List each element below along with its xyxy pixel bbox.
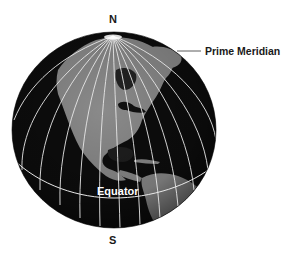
- north-label: N: [109, 14, 117, 25]
- globe-illustration: [0, 0, 294, 254]
- prime-meridian-label: Prime Meridian: [205, 46, 280, 57]
- globe-diagram: N S Prime Meridian Equator: [0, 0, 294, 254]
- south-label: S: [109, 235, 116, 246]
- north-pole-marker: [104, 35, 122, 40]
- equator-label: Equator: [97, 186, 139, 197]
